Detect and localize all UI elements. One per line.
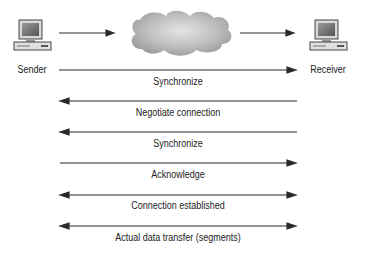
message-label: Synchronize xyxy=(72,76,284,87)
diagram-canvas xyxy=(0,0,366,255)
network-cloud-icon xyxy=(132,11,232,56)
receiver-computer-icon xyxy=(310,20,347,50)
message-label: Connection established xyxy=(72,200,284,211)
receiver-label: Receiver xyxy=(304,64,353,75)
sender-label: Sender xyxy=(14,64,50,75)
message-label: Negotiate connection xyxy=(72,107,284,118)
sender-computer-icon xyxy=(14,20,51,50)
message-label: Actual data transfer (segments) xyxy=(72,232,284,243)
message-label: Acknowledge xyxy=(72,169,284,180)
message-label: Synchronize xyxy=(72,138,284,149)
